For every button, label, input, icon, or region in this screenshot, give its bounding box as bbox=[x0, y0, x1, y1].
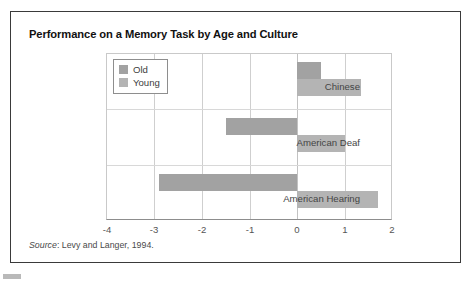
legend-item-young: Young bbox=[119, 76, 160, 89]
chart-figure: Performance on a Memory Task by Age and … bbox=[10, 11, 461, 263]
xtick-label-2: 2 bbox=[389, 224, 394, 235]
legend-swatch-young-icon bbox=[119, 78, 128, 87]
source-note-text: : Levy and Langer, 1994. bbox=[57, 240, 154, 250]
xtick-label--1: -1 bbox=[246, 224, 255, 235]
xtick-label-0: 0 bbox=[294, 224, 299, 235]
bar-chinese-old bbox=[297, 62, 321, 79]
gridline-x--1 bbox=[250, 54, 251, 219]
legend-label-young: Young bbox=[133, 77, 160, 88]
category-label-chinese: Chinese bbox=[325, 81, 360, 92]
chart-legend: Old Young bbox=[113, 59, 168, 94]
legend-label-old: Old bbox=[133, 64, 148, 75]
legend-item-old: Old bbox=[119, 63, 160, 76]
page-edge-artifact bbox=[3, 274, 21, 279]
xtick-label--2: -2 bbox=[198, 224, 207, 235]
source-note: Source: Levy and Langer, 1994. bbox=[29, 240, 154, 250]
xtick-label--3: -3 bbox=[150, 224, 159, 235]
xtick-label--4: -4 bbox=[103, 224, 112, 235]
category-label-american-hearing: American Hearing bbox=[283, 193, 360, 204]
legend-swatch-old-icon bbox=[119, 65, 128, 74]
xtick-label-1: 1 bbox=[342, 224, 347, 235]
chart-title: Performance on a Memory Task by Age and … bbox=[29, 28, 298, 40]
gridline-x--2 bbox=[202, 54, 203, 219]
category-label-american-deaf: American Deaf bbox=[297, 137, 360, 148]
bar-american-deaf-old bbox=[226, 118, 297, 135]
gridline-category-2 bbox=[107, 165, 391, 166]
gridline-category-1 bbox=[107, 109, 391, 110]
bar-american-hearing-old bbox=[159, 174, 297, 191]
source-note-label: Source bbox=[29, 240, 57, 250]
